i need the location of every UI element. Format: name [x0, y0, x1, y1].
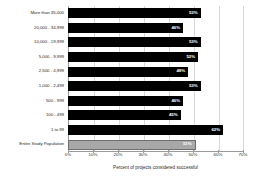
category-label: 5,000 - 9,999: [39, 55, 64, 59]
bar-row: 53%: [68, 79, 243, 94]
category-label-row: 2,500 - 4,999: [0, 64, 66, 79]
bar-row: 62%: [68, 123, 243, 138]
bar-row: 46%: [68, 21, 243, 36]
category-label-row: More than 35,000: [0, 6, 66, 21]
bar-value-label: 48%: [177, 69, 189, 73]
bar-value-label: 53%: [189, 40, 201, 44]
bar[interactable]: 62%: [68, 125, 223, 135]
category-label: 10,000 - 19,999: [34, 40, 64, 44]
category-label-row: 500 - 999: [0, 94, 66, 109]
category-label: 500 - 999: [46, 99, 64, 103]
bar-row: 51%: [68, 137, 243, 152]
category-label: 1,000 - 2,499: [39, 84, 64, 88]
bar-row: 46%: [68, 94, 243, 109]
bar-value-label: 53%: [189, 11, 201, 15]
category-label: More than 35,000: [30, 11, 64, 15]
x-tick-label: 20%: [114, 153, 123, 157]
x-axis-title: Percent of projects considered successfu…: [68, 166, 243, 171]
bar[interactable]: 45%: [68, 110, 181, 120]
category-label-row: 10,000 - 19,999: [0, 35, 66, 50]
bar-chart: More than 35,00020,000 - 34,99910,000 - …: [0, 0, 256, 182]
x-tick-label: 70%: [239, 153, 248, 157]
category-label-row: 1 to 99: [0, 123, 66, 138]
bar-value-label: 46%: [172, 26, 184, 30]
x-tick-label: 40%: [164, 153, 173, 157]
category-label: 1 to 99: [51, 128, 64, 132]
bar-value-label: 62%: [212, 128, 224, 132]
bar[interactable]: 52%: [68, 52, 198, 62]
bar-value-label: 53%: [189, 84, 201, 88]
category-label-row: 1,000 - 2,499: [0, 79, 66, 94]
category-label: 20,000 - 34,999: [34, 26, 64, 30]
x-axis-ticks: 0%10%20%30%40%50%60%70%: [68, 153, 243, 163]
bar[interactable]: 46%: [68, 23, 183, 33]
bar[interactable]: 48%: [68, 67, 188, 77]
category-label: Entire Study Population: [19, 142, 64, 146]
category-label: 2,500 - 4,999: [39, 69, 64, 73]
gridline: [243, 6, 244, 151]
category-label-row: 100 - 499: [0, 108, 66, 123]
bar-row: 48%: [68, 64, 243, 79]
x-tick-label: 10%: [89, 153, 98, 157]
bar-row: 45%: [68, 108, 243, 123]
bar[interactable]: 53%: [68, 8, 201, 18]
bar-value-label: 51%: [183, 142, 195, 146]
category-label-row: 20,000 - 34,999: [0, 21, 66, 36]
bar[interactable]: 51%: [68, 140, 196, 150]
bar-row: 53%: [68, 6, 243, 21]
x-tick-label: 60%: [214, 153, 223, 157]
bar-row: 53%: [68, 35, 243, 50]
bars-layer: 53%46%53%52%48%53%46%45%62%51%: [68, 6, 243, 152]
category-label-row: Entire Study Population: [0, 137, 66, 152]
bar-value-label: 52%: [187, 55, 199, 59]
x-tick-label: 30%: [139, 153, 148, 157]
bar-value-label: 45%: [169, 113, 181, 117]
x-tick-label: 0%: [65, 153, 71, 157]
bar-row: 52%: [68, 50, 243, 65]
bar-value-label: 46%: [172, 99, 184, 103]
bar[interactable]: 53%: [68, 81, 201, 91]
bar[interactable]: 46%: [68, 96, 183, 106]
bar[interactable]: 53%: [68, 37, 201, 47]
category-label: 100 - 499: [46, 113, 64, 117]
category-axis: More than 35,00020,000 - 34,99910,000 - …: [0, 6, 66, 152]
category-label-row: 5,000 - 9,999: [0, 50, 66, 65]
x-tick-label: 50%: [189, 153, 198, 157]
